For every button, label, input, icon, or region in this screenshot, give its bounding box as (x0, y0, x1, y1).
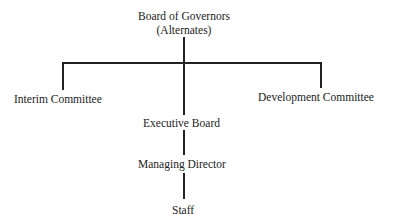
connector-board-down (183, 37, 185, 115)
board-sublabel: (Alternates) (124, 23, 244, 37)
node-managing-director: Managing Director (138, 157, 226, 171)
node-executive-board: Executive Board (143, 116, 220, 130)
connector-development (320, 62, 322, 88)
connector-executive-managing (183, 130, 185, 155)
node-interim-committee: Interim Committee (14, 92, 102, 106)
board-label: Board of Governors (124, 9, 244, 23)
node-staff: Staff (172, 203, 194, 217)
node-board-of-governors: Board of Governors (Alternates) (124, 9, 244, 37)
connector-horizontal (62, 62, 322, 64)
connector-interim (62, 62, 64, 90)
node-development-committee: Development Committee (258, 90, 374, 104)
connector-managing-staff (183, 173, 185, 199)
